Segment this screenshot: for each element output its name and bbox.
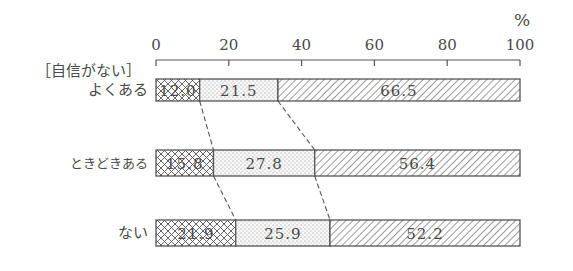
value-label: 66.5	[380, 82, 417, 100]
bars: よくある12.021.566.5ときどきある15.827.856.4ない21.9…	[70, 79, 520, 246]
value-label: 27.8	[245, 155, 282, 173]
x-tick-label: 0	[151, 36, 161, 54]
connector-line	[200, 101, 214, 150]
x-tick-label: 100	[506, 36, 535, 54]
group-label: ［自信がない］	[36, 62, 141, 80]
bar-row: ない21.925.952.2	[118, 220, 520, 246]
stacked-bar-chart: % 020406080100 ［自信がない］ よくある12.021.566.5と…	[0, 0, 573, 271]
category-label: ない	[118, 224, 148, 242]
connector-line	[315, 176, 330, 220]
x-axis-ticks: 020406080100	[151, 36, 534, 66]
value-label: 25.9	[264, 225, 301, 243]
x-tick-label: 60	[365, 36, 384, 54]
value-label: 12.0	[159, 82, 196, 100]
unit-label: %	[514, 10, 530, 30]
connector-line	[214, 176, 236, 220]
category-label: よくある	[88, 81, 148, 99]
value-label: 21.5	[220, 82, 257, 100]
bar-row: よくある12.021.566.5	[88, 79, 520, 101]
bar-row: ときどきある15.827.856.4	[70, 150, 520, 176]
category-label: ときどきある	[70, 156, 148, 171]
value-label: 56.4	[399, 155, 436, 173]
value-label: 52.2	[406, 225, 443, 243]
value-label: 21.9	[177, 225, 214, 243]
x-tick-label: 20	[219, 36, 238, 54]
connector-line	[278, 101, 315, 150]
x-tick-label: 40	[292, 36, 311, 54]
value-label: 15.8	[166, 155, 203, 173]
x-tick-label: 80	[438, 36, 457, 54]
